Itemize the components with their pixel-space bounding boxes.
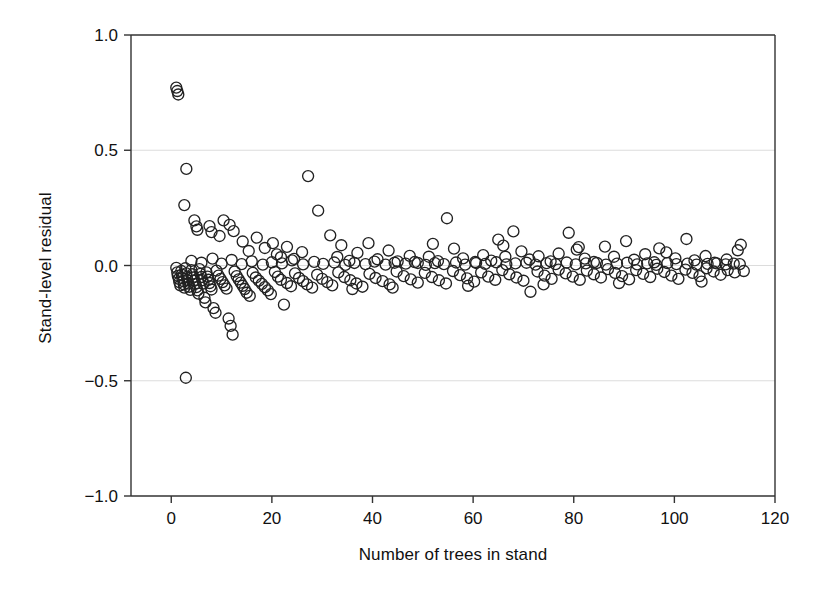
data-point (179, 200, 190, 211)
data-point (276, 258, 287, 269)
data-point (563, 227, 574, 238)
data-point (259, 242, 270, 253)
data-point (511, 272, 522, 283)
data-point (440, 278, 451, 289)
data-point (546, 273, 557, 284)
data-point (441, 213, 452, 224)
data-point (405, 274, 416, 285)
data-point (325, 230, 336, 241)
data-point (336, 240, 347, 251)
data-point (251, 232, 262, 243)
data-point (256, 278, 267, 289)
x-tick-label: 40 (363, 509, 382, 528)
data-point (259, 282, 270, 293)
data-point (313, 205, 324, 216)
data-point (490, 274, 501, 285)
x-tick-label: 60 (464, 509, 483, 528)
data-point (624, 274, 635, 285)
data-point (573, 242, 584, 253)
y-tick-label: 0.0 (94, 257, 118, 276)
data-point (204, 221, 215, 232)
data-point (372, 254, 383, 265)
x-tick-label: 120 (761, 509, 789, 528)
data-point (383, 245, 394, 256)
x-tick-label: 80 (564, 509, 583, 528)
data-point (303, 171, 314, 182)
data-point (180, 372, 191, 383)
data-point (297, 247, 308, 258)
data-point (617, 271, 628, 282)
data-point (265, 289, 276, 300)
x-tick-label: 20 (262, 509, 281, 528)
scatter-figure: 1.00.50.0−0.5−1.0020406080100120 Stand-l… (0, 0, 821, 590)
data-point (221, 283, 232, 294)
y-tick-label: 0.5 (94, 141, 118, 160)
data-point (622, 257, 633, 268)
data-point (673, 273, 684, 284)
data-point (599, 241, 610, 252)
data-points (171, 82, 750, 383)
data-point (518, 275, 529, 286)
data-point (567, 271, 578, 282)
data-point (298, 259, 309, 270)
y-tick-label: −1.0 (84, 487, 118, 506)
data-point (253, 275, 264, 286)
data-point (384, 279, 395, 290)
data-point (553, 248, 564, 259)
data-point (281, 241, 292, 252)
data-point (223, 313, 234, 324)
data-point (433, 275, 444, 286)
x-tick-label: 100 (660, 509, 688, 528)
data-point (412, 277, 423, 288)
data-point (508, 226, 519, 237)
data-point (621, 236, 632, 247)
data-point (243, 245, 254, 256)
data-point (262, 285, 273, 296)
data-point (387, 282, 398, 293)
y-tick-label: 1.0 (94, 26, 118, 45)
y-axis-title: Stand-level residual (36, 118, 56, 418)
data-point (278, 299, 289, 310)
data-point (352, 247, 363, 258)
data-point (574, 274, 585, 285)
y-tick-label: −0.5 (84, 372, 118, 391)
data-point (181, 163, 192, 174)
x-axis-title: Number of trees in stand (131, 545, 775, 565)
x-tick-label: 0 (167, 509, 176, 528)
data-point (228, 226, 239, 237)
data-point (363, 238, 374, 249)
data-point (681, 233, 692, 244)
data-point (226, 254, 237, 265)
plot-canvas: 1.00.50.0−0.5−1.0020406080100120 (0, 0, 821, 590)
data-point (236, 259, 247, 270)
data-point (377, 276, 388, 287)
data-point (267, 238, 278, 249)
data-point (427, 238, 438, 249)
data-point (525, 286, 536, 297)
data-point (449, 243, 460, 254)
data-point (196, 257, 207, 268)
data-point (614, 278, 625, 289)
